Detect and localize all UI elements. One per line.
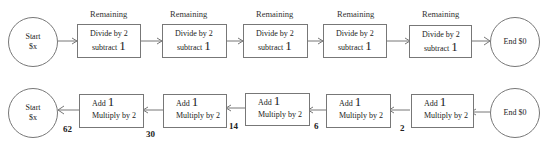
- step-subtract: subtract: [338, 43, 363, 52]
- step-operation: Multiply by 2: [176, 110, 220, 121]
- step-add-amount: 1: [355, 94, 362, 109]
- step-operation: Multiply by 2: [258, 109, 302, 120]
- intermediate-value: 2: [400, 123, 405, 133]
- step-add: Add: [92, 99, 106, 108]
- step-add-amount: 1: [274, 93, 281, 108]
- end-node-bottom: End $0: [490, 88, 540, 138]
- step-subtract-amount: 1: [204, 38, 211, 53]
- step-header: Remaining: [256, 9, 293, 19]
- end-label: End $0: [504, 108, 527, 118]
- step-operation: Multiply by 2: [339, 110, 383, 121]
- divide-step-box: Divide by 2 subtract 1: [162, 24, 227, 58]
- step-subtract: subtract: [424, 44, 449, 53]
- multiply-step-box: Add 1 Multiply by 2: [79, 94, 144, 128]
- step-subtract: subtract: [258, 43, 283, 52]
- intermediate-value: 14: [229, 121, 238, 131]
- intermediate-value: 30: [146, 129, 155, 139]
- step-operation: Multiply by 2: [92, 110, 136, 121]
- intermediate-value: 6: [314, 121, 319, 131]
- step-add-amount: 1: [440, 94, 447, 109]
- step-subtract-amount: 1: [119, 38, 126, 53]
- divide-step-box: Divide by 2 subtract 1: [323, 24, 387, 58]
- step-header: Remaining: [170, 9, 207, 19]
- step-subtract: subtract: [177, 43, 202, 52]
- start-amount: $x: [29, 42, 37, 52]
- multiply-step-box: Add 1 Multiply by 2: [163, 94, 227, 128]
- multiply-step-box: Add 1 Multiply by 2: [326, 94, 391, 128]
- multiply-step-box: Add 1 Multiply by 2: [411, 94, 474, 128]
- start-label: Start: [25, 32, 40, 42]
- multiply-step-box: Add 1 Multiply by 2: [245, 93, 310, 126]
- divide-step-box: Divide by 2 subtract 1: [409, 25, 472, 58]
- start-node-top: Start $x: [8, 17, 58, 67]
- step-operation: Multiply by 2: [424, 110, 468, 121]
- divide-step-box: Divide by 2 subtract 1: [243, 24, 308, 58]
- step-subtract-amount: 1: [451, 39, 458, 54]
- start-amount: $x: [29, 113, 37, 123]
- step-add-amount: 1: [192, 94, 199, 109]
- intermediate-value: 62: [63, 124, 72, 134]
- step-add: Add: [424, 99, 438, 108]
- step-header: Remaining: [90, 9, 127, 19]
- step-add-amount: 1: [108, 94, 115, 109]
- step-add: Add: [339, 99, 353, 108]
- step-subtract-amount: 1: [285, 38, 292, 53]
- step-header: Remaining: [422, 9, 459, 19]
- step-subtract: subtract: [92, 43, 117, 52]
- end-label: End $0: [504, 37, 527, 47]
- end-node-top: End $0: [490, 17, 540, 67]
- step-subtract-amount: 1: [365, 38, 372, 53]
- start-label: Start: [25, 103, 40, 113]
- step-header: Remaining: [337, 9, 374, 19]
- step-add: Add: [176, 99, 190, 108]
- divide-step-box: Divide by 2 subtract 1: [77, 24, 141, 58]
- step-add: Add: [258, 98, 272, 107]
- start-node-bottom: Start $x: [8, 88, 58, 138]
